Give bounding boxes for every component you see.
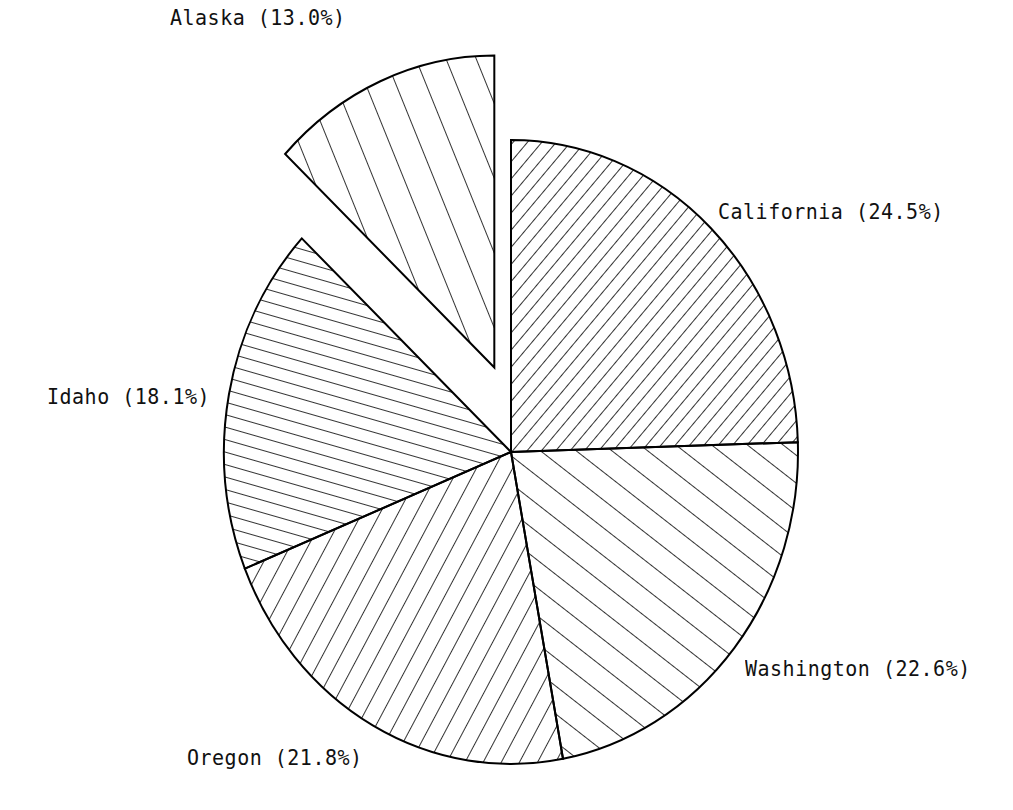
label-california: California (24.5%) (718, 198, 944, 224)
label-washington: Washington (22.6%) (745, 655, 971, 681)
label-alaska: Alaska (13.0%) (170, 4, 346, 30)
label-idaho: Idaho (18.1%) (47, 383, 210, 409)
label-oregon: Oregon (21.8%) (187, 744, 363, 770)
pie-slice-california (511, 140, 798, 452)
pie-slices (224, 56, 798, 764)
